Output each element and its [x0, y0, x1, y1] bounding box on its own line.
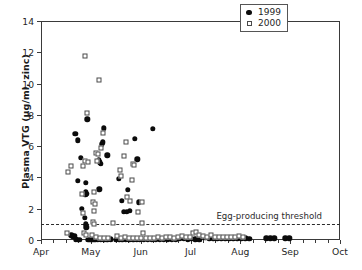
data-point-1999 — [247, 236, 252, 241]
y-tick-label: 4 — [28, 172, 34, 183]
y-tick-label: 6 — [28, 141, 34, 152]
data-point-2000 — [241, 235, 246, 240]
figure-scatter-plasma-vtg: Plasma VTG (µg/ml, zinc) 02468101214 Apr… — [0, 0, 362, 270]
data-point-2000 — [139, 220, 144, 225]
threshold-label: Egg-producing threshold — [216, 211, 322, 221]
x-tick-mark — [290, 240, 291, 244]
data-point-2000 — [69, 164, 74, 169]
y-tick-label: 14 — [22, 16, 34, 27]
data-point-1999 — [77, 237, 82, 242]
x-tick-minor — [303, 240, 304, 243]
data-point-2000 — [80, 192, 85, 197]
data-point-2000 — [135, 210, 140, 215]
data-point-2000 — [117, 168, 122, 173]
data-point-1999 — [83, 180, 88, 185]
data-point-2000 — [66, 170, 71, 175]
data-point-2000 — [81, 164, 86, 169]
x-tick-label: Jun — [133, 246, 147, 257]
open-square-icon — [245, 21, 253, 26]
data-point-2000 — [82, 54, 87, 59]
data-point-1999 — [272, 235, 277, 240]
x-tick-minor — [315, 240, 316, 243]
x-tick-mark — [41, 240, 42, 244]
data-point-2000 — [93, 201, 98, 206]
plot-area: 02468101214 AprMayJunJulAugSepOct Egg-pr… — [41, 21, 340, 240]
data-point-2000 — [84, 233, 89, 238]
y-tick-mark — [37, 21, 41, 22]
x-tick-label: Sep — [281, 246, 298, 257]
data-point-2000 — [129, 178, 134, 183]
data-point-2000 — [131, 163, 136, 168]
x-tick-label: Jul — [185, 246, 196, 257]
data-point-1999 — [132, 136, 137, 141]
x-tick-label: May — [81, 246, 100, 257]
data-point-2000 — [81, 211, 86, 216]
data-point-1999 — [134, 157, 139, 162]
data-point-2000 — [95, 152, 100, 157]
filled-circle-icon — [245, 10, 253, 15]
y-tick-label: 0 — [28, 235, 34, 246]
data-point-2000 — [123, 139, 128, 144]
x-tick-minor — [278, 240, 279, 243]
data-point-2000 — [92, 209, 97, 214]
x-tick-label: Oct — [332, 246, 348, 257]
data-point-2000 — [91, 222, 96, 227]
data-point-2000 — [86, 159, 91, 164]
x-tick-label: Aug — [231, 246, 249, 257]
data-point-2000 — [95, 159, 100, 164]
data-point-2000 — [127, 198, 132, 203]
data-point-2000 — [105, 236, 110, 241]
data-point-1999 — [105, 153, 110, 158]
data-point-1999 — [85, 117, 90, 122]
data-point-2000 — [139, 200, 144, 205]
x-tick-mark — [340, 240, 341, 244]
data-point-1999 — [75, 137, 80, 142]
y-tick-mark — [37, 209, 41, 210]
data-point-1999 — [73, 131, 78, 136]
legend-entry-2000: 2000 — [245, 18, 281, 29]
y-tick-label: 12 — [22, 47, 34, 58]
data-point-1999 — [150, 126, 155, 131]
x-tick-minor — [328, 240, 329, 243]
data-point-1999 — [75, 178, 80, 183]
data-point-1999 — [127, 208, 132, 213]
y-tick-mark — [37, 115, 41, 116]
data-point-1999 — [100, 140, 105, 145]
legend: 1999 2000 — [240, 4, 288, 32]
data-point-1999 — [125, 187, 130, 192]
data-point-1999 — [97, 187, 102, 192]
x-tick-label: Apr — [33, 246, 49, 257]
data-point-2000 — [100, 130, 105, 135]
x-tick-minor — [203, 240, 204, 243]
x-tick-minor — [66, 240, 67, 243]
data-point-2000 — [98, 146, 103, 151]
data-point-2000 — [118, 174, 123, 179]
data-point-2000 — [96, 77, 101, 82]
x-tick-minor — [253, 240, 254, 243]
data-point-2000 — [92, 190, 97, 195]
data-point-2000 — [111, 220, 116, 225]
y-tick-label: 8 — [28, 109, 34, 120]
data-point-1999 — [82, 215, 87, 220]
legend-label-2000: 2000 — [258, 18, 281, 29]
data-point-2000 — [85, 110, 90, 115]
data-point-2000 — [121, 154, 126, 159]
y-tick-label: 10 — [22, 78, 34, 89]
y-tick-mark — [37, 84, 41, 85]
x-tick-minor — [53, 240, 54, 243]
y-tick-mark — [37, 146, 41, 147]
y-tick-mark — [37, 177, 41, 178]
legend-label-1999: 1999 — [258, 7, 281, 18]
legend-entry-1999: 1999 — [245, 7, 281, 18]
y-tick-label: 2 — [28, 203, 34, 214]
data-point-2000 — [64, 231, 69, 236]
data-point-1999 — [84, 225, 89, 230]
y-tick-mark — [37, 52, 41, 53]
